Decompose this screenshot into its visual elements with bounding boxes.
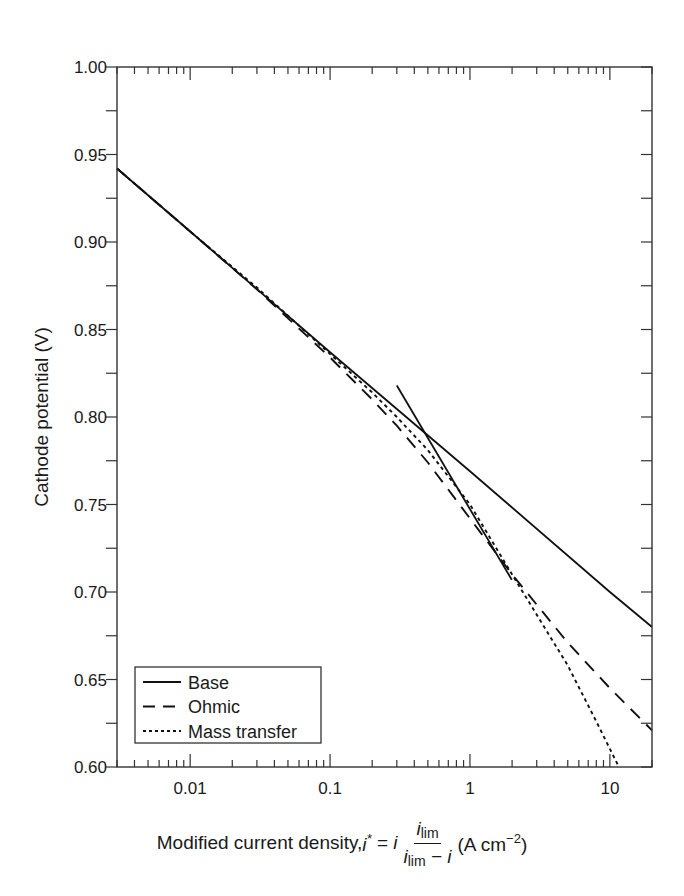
y-tick-label: 0.90 <box>74 233 107 252</box>
fraction-denominator: ilim − i <box>404 844 452 868</box>
y-tick-label: 0.60 <box>74 758 107 777</box>
x-axis-label: Modified current density, i* = i ilim il… <box>0 818 684 868</box>
x-tick-label: 1 <box>465 779 474 798</box>
x-axis-label-var: i* <box>362 831 371 856</box>
units-text: (A cm <box>458 834 507 855</box>
y-tick-label: 1.00 <box>74 58 107 77</box>
y-tick-label: 0.75 <box>74 496 107 515</box>
fraction-numerator: ilim <box>414 819 440 844</box>
units-sup: −2 <box>506 831 521 846</box>
legend-label: Base <box>188 673 229 693</box>
x-tick-label: 0.1 <box>318 779 342 798</box>
y-tick-label: 0.85 <box>74 321 107 340</box>
units-close: ) <box>521 834 527 855</box>
y-axis-label: Cathode potential (V) <box>31 327 53 507</box>
axis-ticks <box>106 67 652 767</box>
series-ohmic <box>117 169 652 731</box>
x-tick-label: 0.01 <box>174 779 207 798</box>
y-tick-label: 0.70 <box>74 583 107 602</box>
y-tick-label: 0.95 <box>74 146 107 165</box>
x-axis-label-prefix: Modified current density, <box>157 832 363 854</box>
den-rest: − i <box>426 846 452 867</box>
legend: BaseOhmicMass transfer <box>135 667 321 743</box>
y-tick-label: 0.80 <box>74 408 107 427</box>
x-axis-label-eq: = <box>372 832 394 854</box>
x-axis-label-units: (A cm−2) <box>458 831 528 856</box>
series-double-tafel-slope-line-unlabeled <box>397 386 512 580</box>
legend-label: Ohmic <box>188 697 240 717</box>
plot-frame <box>117 67 652 767</box>
x-axis-label-fraction: ilim ilim − i <box>404 819 452 868</box>
num-sub: lim <box>421 825 439 841</box>
chart-canvas: 0.010.11100.600.650.700.750.800.850.900.… <box>0 0 684 896</box>
x-tick-label: 10 <box>600 779 619 798</box>
y-tick-label: 0.65 <box>74 671 107 690</box>
den-sub: lim <box>408 853 426 869</box>
legend-label: Mass transfer <box>188 722 297 742</box>
x-axis-label-i: i <box>393 832 397 854</box>
